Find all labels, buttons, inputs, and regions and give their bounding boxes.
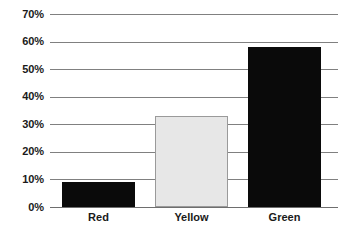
y-axis-tick-label-70: 70% bbox=[0, 9, 44, 20]
axis-baseline-0 bbox=[50, 207, 338, 208]
y-axis-tick-label-20: 20% bbox=[0, 146, 44, 157]
bar-red[interactable] bbox=[62, 182, 135, 207]
y-axis-tick-label-50: 50% bbox=[0, 64, 44, 75]
y-axis-tick-label-40: 40% bbox=[0, 91, 44, 102]
y-axis-tick-label-30: 30% bbox=[0, 119, 44, 130]
bar-yellow[interactable] bbox=[155, 116, 228, 207]
bar-chart: 70% 60% 50% 40% 30% 20% 10% 0% Red Yello… bbox=[0, 0, 344, 237]
bar-green[interactable] bbox=[248, 47, 321, 207]
y-axis-tick-label-0: 0% bbox=[0, 202, 44, 213]
x-axis-label-yellow: Yellow bbox=[155, 212, 228, 223]
bars-layer bbox=[50, 14, 338, 207]
y-axis-tick-label-60: 60% bbox=[0, 36, 44, 47]
y-axis-tick-label-10: 10% bbox=[0, 174, 44, 185]
plot-area bbox=[50, 14, 338, 207]
x-axis-label-green: Green bbox=[248, 212, 321, 223]
x-axis-label-red: Red bbox=[62, 212, 135, 223]
